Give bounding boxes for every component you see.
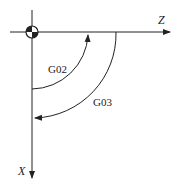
x-axis-label: X	[18, 165, 25, 177]
diagram-canvas	[0, 0, 175, 188]
g03-label: G03	[93, 97, 112, 108]
g02-label: G02	[48, 64, 67, 75]
origin-icon	[26, 26, 38, 38]
g02-arc	[32, 35, 88, 89]
z-axis-label: Z	[158, 14, 165, 26]
